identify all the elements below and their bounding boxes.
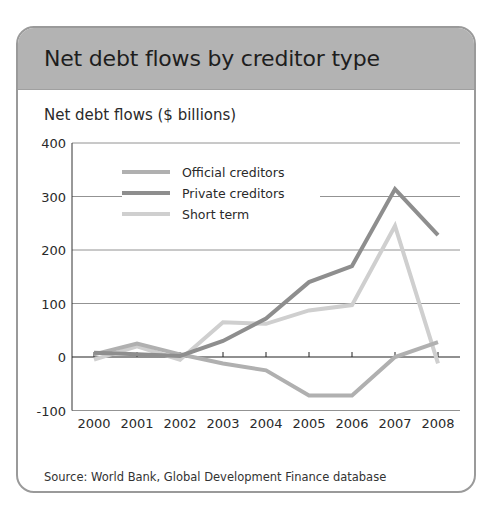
x-tick-label: 2008 [421,416,454,431]
legend-label: Official creditors [182,165,284,180]
y-tick-label: 300 [41,190,66,205]
x-tick-label: 2007 [378,416,411,431]
series-line-short-term [94,226,438,363]
legend-label: Private creditors [182,186,285,201]
x-tick-label: 2004 [249,416,282,431]
x-tick-label: 2005 [292,416,325,431]
x-tick-label: 2000 [77,416,110,431]
x-tick-label: 2003 [206,416,239,431]
x-tick-label: 2001 [120,416,153,431]
x-tick-label: 2006 [335,416,368,431]
x-tick-label: 2002 [163,416,196,431]
y-tick-label: -100 [36,404,66,419]
y-tick-label: 400 [41,136,66,151]
legend: Official creditorsPrivate creditorsShort… [122,160,320,222]
y-tick-label: 100 [41,297,66,312]
y-tick-label: 200 [41,243,66,258]
line-chart: -100010020030040020002001200220032004200… [0,0,493,520]
legend-label: Short term [182,207,249,222]
y-tick-label: 0 [58,350,66,365]
